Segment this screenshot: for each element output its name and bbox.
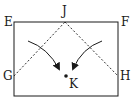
diagram-canvas xyxy=(0,0,136,102)
left-fold-arrow-icon xyxy=(28,41,59,69)
label-h: H xyxy=(120,70,130,82)
dashed-fold-line-gj xyxy=(14,22,65,76)
label-j: J xyxy=(62,5,67,17)
label-k: K xyxy=(69,78,78,90)
label-g: G xyxy=(3,70,13,82)
point-k-dot xyxy=(64,74,68,78)
label-f: F xyxy=(121,16,129,28)
label-e: E xyxy=(4,16,13,28)
folding-diagram: E J F G H K xyxy=(0,0,136,102)
rectangle-efgh xyxy=(14,22,118,96)
